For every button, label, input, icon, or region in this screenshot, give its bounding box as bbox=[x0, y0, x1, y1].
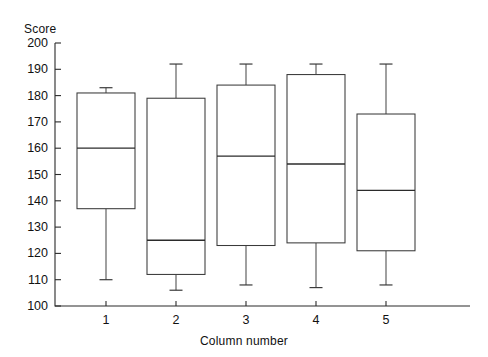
y-tick-label: 200 bbox=[10, 37, 48, 50]
box-rect bbox=[287, 75, 345, 243]
box-rect bbox=[77, 93, 135, 209]
box-plot-group bbox=[357, 64, 415, 285]
y-tick-label: 140 bbox=[10, 195, 48, 208]
box-plot-group bbox=[217, 64, 275, 285]
y-tick-label: 130 bbox=[10, 221, 48, 234]
box-plot-group bbox=[287, 64, 345, 288]
plot-area bbox=[0, 0, 488, 357]
y-tick-label: 120 bbox=[10, 247, 48, 260]
x-tick-label: 4 bbox=[296, 314, 336, 327]
x-axis-title: Column number bbox=[0, 334, 488, 348]
x-tick-label: 2 bbox=[156, 314, 196, 327]
y-tick-label: 110 bbox=[10, 274, 48, 287]
box-rect bbox=[217, 85, 275, 245]
y-tick-label: 100 bbox=[10, 300, 48, 313]
y-tick-label: 150 bbox=[10, 169, 48, 182]
box-rect bbox=[357, 114, 415, 251]
x-tick-label: 1 bbox=[86, 314, 126, 327]
box-rect bbox=[147, 98, 205, 274]
y-tick-label: 170 bbox=[10, 116, 48, 129]
box-plot-group bbox=[77, 88, 135, 280]
y-tick-label: 180 bbox=[10, 90, 48, 103]
x-tick-label: 3 bbox=[226, 314, 266, 327]
x-tick-label: 5 bbox=[366, 314, 406, 327]
box-plot-group bbox=[147, 64, 205, 290]
y-tick-label: 190 bbox=[10, 63, 48, 76]
box-plot-chart: Score 200190180170160150140130120110100 … bbox=[0, 0, 488, 357]
y-tick-label: 160 bbox=[10, 142, 48, 155]
